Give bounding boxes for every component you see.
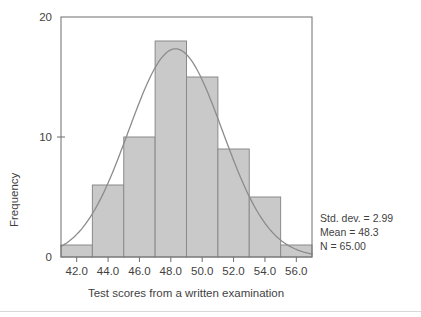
y-axis-title: Frequency <box>8 172 20 227</box>
histogram-bar <box>124 137 155 257</box>
x-tick-label: 48.0 <box>160 265 182 277</box>
histogram-bar <box>218 149 249 257</box>
histogram-bar <box>187 77 218 257</box>
n-label: N = 65.00 <box>320 240 366 252</box>
histogram-figure: 01020 42.044.046.048.050.052.054.056.0 F… <box>0 0 421 317</box>
x-tick-label: 42.0 <box>65 265 87 277</box>
x-tick-label: 50.0 <box>191 265 213 277</box>
histogram-bar <box>92 185 123 257</box>
histogram-bar <box>155 41 186 257</box>
mean-label: Mean = 48.3 <box>320 226 379 238</box>
histogram-bar <box>61 245 92 257</box>
x-tick-label: 52.0 <box>222 265 244 277</box>
y-tick-label: 20 <box>39 11 52 23</box>
y-tick-label: 0 <box>46 251 52 263</box>
std-dev-label: Std. dev. = 2.99 <box>320 212 393 224</box>
x-tick-label: 44.0 <box>97 265 119 277</box>
x-tick-label: 54.0 <box>254 265 276 277</box>
histogram-bar <box>281 245 312 257</box>
chart-canvas: 01020 42.044.046.048.050.052.054.056.0 F… <box>0 0 421 317</box>
x-tick-label: 56.0 <box>285 265 307 277</box>
x-axis-title: Test scores from a written examination <box>88 287 284 299</box>
y-tick-label: 10 <box>39 131 52 143</box>
x-tick-label: 46.0 <box>128 265 150 277</box>
